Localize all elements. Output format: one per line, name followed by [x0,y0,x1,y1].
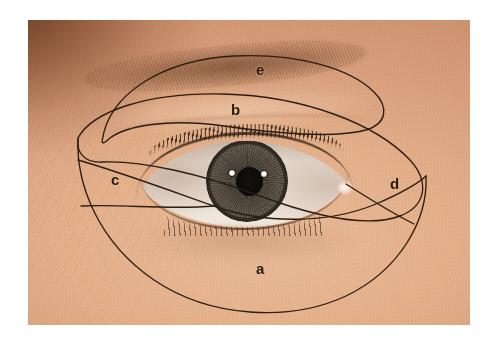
figure-root: a b c d e [0,0,496,344]
outline-outer-boundary [78,138,426,313]
outline-eyebrow-loop [102,56,384,143]
zone-label-c: c [111,172,119,187]
region-outline-overlay [28,20,470,325]
zone-label-d: d [390,176,399,191]
outline-lateral-divider [78,160,426,219]
outline-paths [78,56,426,313]
zone-label-a: a [256,261,264,276]
outline-upper-lid-loop [78,94,423,221]
zone-label-e: e [256,62,264,77]
eye-photograph: a b c d e [28,20,470,325]
outline-zone-c-lower-divider [81,206,214,208]
zone-label-b: b [231,102,240,117]
